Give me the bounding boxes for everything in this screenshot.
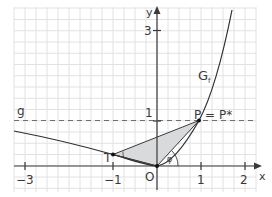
coordinate-diagram: x y −3 −1 1 2 1 3 O g T P = P* φ Gf [0,0,272,197]
angle-label-phi: φ [167,155,172,164]
x-tick-label-1: 1 [197,173,205,187]
point-O [155,164,159,168]
y-axis-arrow-icon [154,6,161,14]
origin-label: O [145,170,154,184]
curve-label: Gf [198,68,211,85]
point-label-T: T [103,151,112,165]
y-tick-label-1: 1 [145,106,153,120]
x-tick-label-neg3: −3 [16,173,34,187]
y-axis-label: y [146,6,153,19]
x-axis-arrow-icon [254,163,262,170]
asymptote-label-g: g [17,104,25,118]
point-label-P: P = P* [194,108,232,122]
point-T [111,153,115,157]
axes [14,12,258,190]
x-tick-label-neg1: −1 [104,173,122,187]
y-tick-label-3: 3 [144,24,152,38]
x-axis-label: x [259,170,266,183]
x-tick-label-2: 2 [240,173,248,187]
grid [14,7,256,192]
